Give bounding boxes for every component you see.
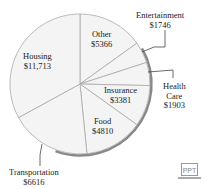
leader-transportation xyxy=(40,144,42,166)
label-transportation: Transportation $6616 xyxy=(9,168,59,187)
label-entertainment: Entertainment $1746 xyxy=(136,11,184,30)
ppt-icon: PPT xyxy=(181,163,198,176)
label-health-care: Health Care $1903 xyxy=(163,82,186,111)
label-food: Food $4810 xyxy=(92,117,113,136)
label-other: Other $5366 xyxy=(91,30,112,49)
label-housing-value: $11,713 xyxy=(23,62,52,72)
label-transportation-value: $6616 xyxy=(9,178,59,188)
label-health-care-value: $1903 xyxy=(163,101,186,111)
label-insurance-value: $3381 xyxy=(104,96,137,106)
ppt-icon-base xyxy=(178,177,201,179)
label-housing: Housing $11,713 xyxy=(23,52,52,71)
label-insurance: Insurance $3381 xyxy=(104,86,137,105)
label-other-value: $5366 xyxy=(91,40,112,50)
label-food-value: $4810 xyxy=(92,127,113,137)
label-entertainment-value: $1746 xyxy=(136,21,184,31)
leader-entertainment xyxy=(142,30,165,52)
